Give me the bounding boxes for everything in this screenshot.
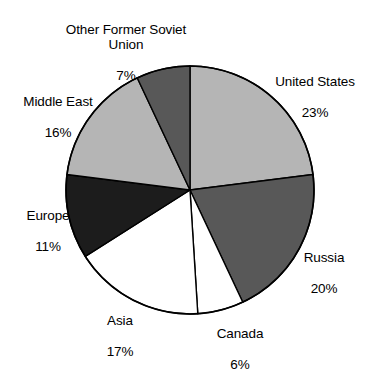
- pie-label-name: Other Former Soviet Union: [36, 22, 216, 53]
- pie-label-name: Middle East: [2, 94, 114, 110]
- pie-label-name: Europe: [2, 208, 94, 224]
- pie-label-value: 23%: [258, 105, 372, 121]
- pie-label-europe: Europe 11%: [2, 192, 94, 270]
- pie-label-value: 16%: [2, 125, 114, 141]
- pie-label-name: United States: [258, 74, 372, 90]
- pie-label-value: 11%: [2, 239, 94, 255]
- pie-label-russia: Russia 20%: [283, 234, 365, 312]
- pie-label-value: 17%: [78, 344, 162, 360]
- pie-label-united-states: United States 23%: [258, 58, 372, 136]
- pie-label-value: 6%: [196, 357, 284, 373]
- pie-label-name: Asia: [78, 313, 162, 329]
- pie-label-canada: Canada 6%: [196, 310, 284, 373]
- pie-label-middle-east: Middle East 16%: [2, 78, 114, 156]
- pie-label-name: Russia: [283, 250, 365, 266]
- pie-label-name: Canada: [196, 326, 284, 342]
- pie-label-value: 20%: [283, 281, 365, 297]
- pie-label-asia: Asia 17%: [78, 297, 162, 373]
